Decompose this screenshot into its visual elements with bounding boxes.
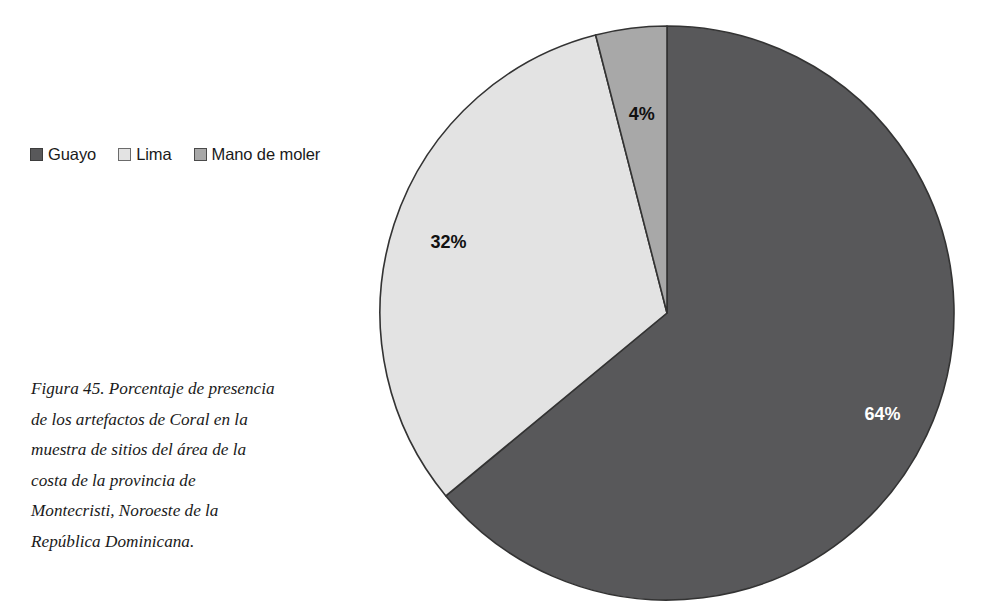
- pie-chart-svg: 64%32%4%: [0, 0, 1005, 609]
- pie-chart: 64%32%4%: [0, 0, 1005, 609]
- figure-page: Guayo Lima Mano de moler Figura 45. Porc…: [0, 0, 1005, 609]
- pie-data-label-guayo: 64%: [864, 404, 900, 424]
- pie-slices-group: [380, 26, 954, 600]
- pie-data-label-mano-de-moler: 4%: [629, 104, 655, 124]
- pie-data-label-lima: 32%: [431, 232, 467, 252]
